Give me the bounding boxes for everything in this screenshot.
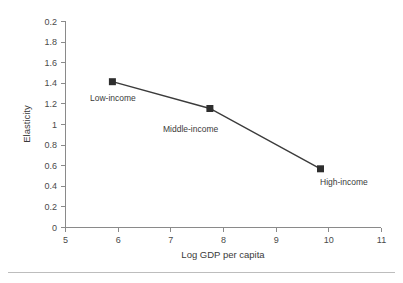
- annotation-low-income: Low-income: [90, 93, 136, 103]
- x-tick-label: 10: [324, 235, 334, 245]
- y-tick-label: 1.6: [44, 58, 57, 68]
- y-tick-label: 1.2: [44, 99, 57, 109]
- y-tick-label: 0.4: [44, 181, 57, 191]
- y-tick-label: 1.4: [44, 78, 57, 88]
- y-tick-label: 1: [52, 120, 57, 130]
- annotation-high-income: High-income: [320, 177, 368, 187]
- y-axis-title: Elasticity: [21, 105, 32, 143]
- x-tick-label: 7: [168, 235, 173, 245]
- y-axis-ticks: [61, 22, 65, 228]
- y-tick-label: 0.2: [44, 17, 57, 27]
- x-tick-label: 9: [274, 235, 279, 245]
- data-point-marker[interactable]: [109, 78, 116, 85]
- x-tick-label: 5: [63, 235, 68, 245]
- x-tick-label: 11: [377, 235, 386, 245]
- y-tick-label: 1.8: [44, 37, 57, 47]
- data-point-marker[interactable]: [317, 165, 324, 172]
- y-tick-label: 0: [52, 223, 57, 233]
- y-axis-tick-labels: 0.2 1.8 1.6 1.4 1.2 1 0.8 0.6 0.4 0.2 0: [44, 17, 57, 233]
- annotation-middle-income: Middle-income: [163, 124, 219, 134]
- y-tick-label: 0.8: [44, 140, 57, 150]
- x-tick-label: 6: [116, 235, 121, 245]
- x-axis-title: Log GDP per capita: [181, 249, 265, 260]
- x-axis-ticks: [66, 228, 382, 232]
- x-axis-tick-labels: 5 6 7 8 9 10 11: [63, 235, 386, 245]
- y-tick-label: 0.2: [44, 202, 57, 212]
- x-tick-label: 8: [221, 235, 226, 245]
- chart-figure: 0.2 1.8 1.6 1.4 1.2 1 0.8 0.6 0.4 0.2 0 …: [0, 0, 403, 283]
- data-point-marker[interactable]: [206, 105, 213, 112]
- y-tick-label: 0.6: [44, 161, 57, 171]
- elasticity-vs-log-gdp-line-chart: 0.2 1.8 1.6 1.4 1.2 1 0.8 0.6 0.4 0.2 0 …: [0, 0, 403, 283]
